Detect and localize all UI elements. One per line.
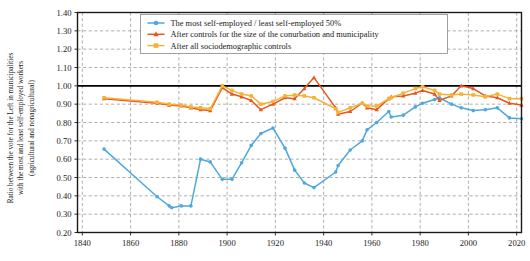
plot-svg: 0.200.300.400.500.600.700.800.901.001.10… xyxy=(0,0,530,261)
x-tick-label: 2020 xyxy=(508,238,525,248)
y-axis-ticks: 0.200.300.400.500.600.700.800.901.001.10… xyxy=(56,8,77,238)
data-point-marker xyxy=(154,21,159,26)
data-point-marker xyxy=(471,109,475,113)
y-tick-label: 0.60 xyxy=(56,154,71,164)
data-point-marker xyxy=(348,148,352,152)
data-point-marker xyxy=(389,96,393,100)
data-point-marker xyxy=(438,92,442,96)
x-tick-label: 1960 xyxy=(363,238,380,248)
data-point-marker xyxy=(414,87,418,91)
data-point-marker xyxy=(334,107,338,111)
data-point-marker xyxy=(387,110,391,114)
data-point-marker xyxy=(303,94,307,98)
data-point-marker xyxy=(271,126,275,130)
data-point-marker xyxy=(199,157,203,161)
data-point-marker xyxy=(459,106,463,110)
data-point-marker xyxy=(421,85,425,89)
chart-legend[interactable]: The most self-employed / least self-empl… xyxy=(141,15,448,54)
data-point-marker xyxy=(230,89,234,93)
data-point-marker xyxy=(334,170,338,174)
data-point-marker xyxy=(375,104,379,108)
data-point-marker xyxy=(389,115,393,119)
y-tick-label: 0.40 xyxy=(56,191,71,201)
data-point-marker xyxy=(365,128,369,132)
data-point-marker xyxy=(450,93,454,97)
data-point-marker xyxy=(170,206,174,210)
data-point-marker xyxy=(312,186,316,190)
data-point-marker xyxy=(220,84,224,88)
data-point-marker xyxy=(189,105,193,109)
data-point-marker xyxy=(220,178,224,182)
data-point-marker xyxy=(259,132,263,136)
data-point-marker xyxy=(283,94,287,98)
data-point-marker xyxy=(240,92,244,96)
data-point-marker xyxy=(496,92,500,96)
data-point-marker xyxy=(102,147,106,151)
data-point-marker xyxy=(208,160,212,164)
y-tick-label: 0.70 xyxy=(56,136,71,146)
data-point-marker xyxy=(208,107,212,111)
data-point-marker xyxy=(421,101,425,105)
data-point-marker xyxy=(271,100,275,104)
data-series xyxy=(102,75,524,209)
x-tick-label: 1900 xyxy=(219,238,236,248)
legend-item-2[interactable]: After controls for the size of the conur… xyxy=(148,30,380,39)
y-axis-label-line-3: (agricultural and nonagricultural) xyxy=(27,10,37,246)
x-tick-label: 1840 xyxy=(74,238,91,248)
data-point-marker xyxy=(348,106,352,110)
data-point-marker xyxy=(360,101,364,105)
data-point-marker xyxy=(360,139,364,143)
data-point-marker xyxy=(259,102,263,106)
data-point-marker xyxy=(102,96,106,100)
data-point-marker xyxy=(179,103,183,107)
data-point-marker xyxy=(283,146,287,150)
data-point-marker xyxy=(336,164,340,168)
data-point-marker xyxy=(240,161,244,165)
x-tick-label: 1940 xyxy=(315,238,332,248)
data-point-marker xyxy=(249,94,253,98)
data-point-marker xyxy=(508,116,512,120)
data-point-marker xyxy=(167,102,171,106)
data-point-marker xyxy=(484,108,488,112)
y-tick-label: 0.90 xyxy=(56,99,71,109)
x-tick-label: 2000 xyxy=(460,238,477,248)
x-tick-label: 1880 xyxy=(170,238,187,248)
data-point-marker xyxy=(471,93,475,97)
data-point-marker xyxy=(496,106,500,110)
data-point-marker xyxy=(433,98,437,102)
data-point-marker xyxy=(155,195,159,199)
y-tick-label: 1.40 xyxy=(56,8,71,18)
series-line xyxy=(104,98,521,208)
legend-label: After all sociodemographic controls xyxy=(171,42,292,51)
data-point-marker xyxy=(508,97,512,101)
data-point-marker xyxy=(401,91,405,95)
data-point-marker xyxy=(199,106,203,110)
data-point-marker xyxy=(375,121,379,125)
data-point-marker xyxy=(179,204,183,208)
data-point-marker xyxy=(433,89,437,93)
data-point-marker xyxy=(450,102,454,106)
data-point-marker xyxy=(312,96,316,100)
legend-item-1[interactable]: The most self-employed / least self-empl… xyxy=(148,19,342,28)
data-point-marker xyxy=(484,95,488,99)
data-point-marker xyxy=(154,43,159,48)
legend-label: The most self-employed / least self-empl… xyxy=(171,19,342,28)
data-point-marker xyxy=(155,101,159,105)
data-point-marker xyxy=(336,111,340,115)
data-point-marker xyxy=(312,75,316,79)
series-3 xyxy=(102,84,523,114)
data-point-marker xyxy=(365,104,369,108)
x-tick-label: 1920 xyxy=(267,238,284,248)
data-point-marker xyxy=(414,105,418,109)
y-tick-label: 0.50 xyxy=(56,173,71,183)
data-point-marker xyxy=(303,181,307,185)
y-tick-label: 1.10 xyxy=(56,63,71,73)
y-axis-label-line-2: with the most and least self-employed wo… xyxy=(16,10,26,246)
data-point-marker xyxy=(401,113,405,117)
y-axis-label-line-1: Ratio between the vote for the Left in m… xyxy=(6,10,16,246)
y-tick-label: 0.20 xyxy=(56,228,71,238)
chart-figure: Ratio between the vote for the Left in m… xyxy=(0,0,530,261)
legend-label: After controls for the size of the conur… xyxy=(171,30,380,39)
y-tick-label: 0.80 xyxy=(56,118,71,128)
x-tick-label: 1860 xyxy=(122,238,139,248)
